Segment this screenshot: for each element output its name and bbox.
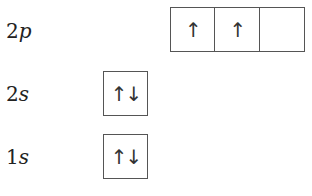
subshell-letter: s <box>19 145 29 169</box>
principal-quantum-number: 2 <box>6 19 19 43</box>
orbital-box: ↑↓ <box>103 134 148 179</box>
orbital-row-2s: ↑↓ <box>103 71 148 116</box>
subshell-label-2s: 2s <box>6 82 29 106</box>
orbital-row-2p: ↑ ↑ <box>170 7 305 52</box>
orbital-box: ↑ <box>170 7 215 52</box>
orbital-box <box>260 7 305 52</box>
subshell-letter: p <box>19 19 32 43</box>
orbital-box: ↑ <box>215 7 260 52</box>
orbital-row-1s: ↑↓ <box>103 134 148 179</box>
principal-quantum-number: 2 <box>6 82 19 106</box>
subshell-label-1s: 1s <box>6 145 29 169</box>
orbital-box: ↑↓ <box>103 71 148 116</box>
subshell-letter: s <box>19 82 29 106</box>
subshell-label-2p: 2p <box>6 19 32 43</box>
principal-quantum-number: 1 <box>6 145 19 169</box>
